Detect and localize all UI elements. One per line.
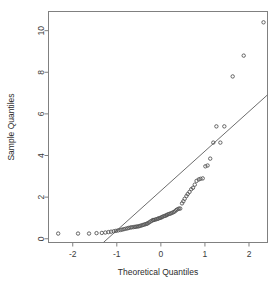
y-axis-title: Sample Quantiles — [6, 93, 16, 160]
x-tick-label: 1 — [203, 249, 208, 259]
x-tick-label: 0 — [158, 249, 163, 259]
y-tick-label: 6 — [36, 111, 46, 116]
y-tick-label: 8 — [36, 70, 46, 75]
y-tick-label: 0 — [36, 236, 46, 241]
x-tick-label: -1 — [113, 249, 121, 259]
y-tick-label: 10 — [36, 26, 46, 36]
x-tick-label: -2 — [69, 249, 77, 259]
x-axis-title: Theoretical Quantiles — [118, 267, 198, 277]
x-tick-label: 2 — [247, 249, 252, 259]
qq-plot-svg: 0246810 -2-1012 Theoretical Quantiles Sa… — [0, 0, 277, 283]
y-tick-label: 2 — [36, 194, 46, 199]
y-tick-label: 4 — [36, 153, 46, 158]
qq-plot-container: 0246810 -2-1012 Theoretical Quantiles Sa… — [0, 0, 277, 283]
